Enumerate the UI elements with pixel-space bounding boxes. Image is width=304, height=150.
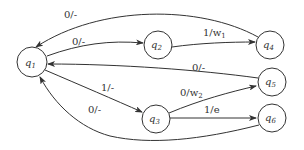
edge-label-q3-q5: 0/w2 [180, 87, 203, 100]
edge-q1-q2: 0/- [47, 36, 143, 56]
edge-label-q3-q6: 1/e [204, 104, 220, 115]
state-q3: q3 [142, 105, 170, 133]
state-q5: q5 [258, 68, 286, 96]
edge-label-q2-q4: 1/w1 [203, 27, 226, 40]
edge-label-q5-q1: 0/- [192, 62, 205, 73]
edge-label-q1-q3: 1/- [101, 82, 114, 93]
edge-q3-q6: 1/e [170, 104, 256, 118]
state-q6: q6 [258, 104, 286, 132]
edge-q5-q1: 0/- [48, 62, 258, 78]
state-diagram: 0/- 0/- 1/w1 0/- 1/- 0/w2 1/e 0/- q1 q2 [0, 0, 304, 150]
edge-label-q4-q1: 0/- [64, 9, 77, 20]
edge-label-q1-q2: 0/- [72, 36, 85, 47]
state-q2: q2 [144, 31, 172, 59]
state-q1: q1 [17, 47, 47, 77]
state-q4: q4 [256, 31, 284, 59]
edge-label-q6-q1: 0/- [88, 104, 101, 115]
